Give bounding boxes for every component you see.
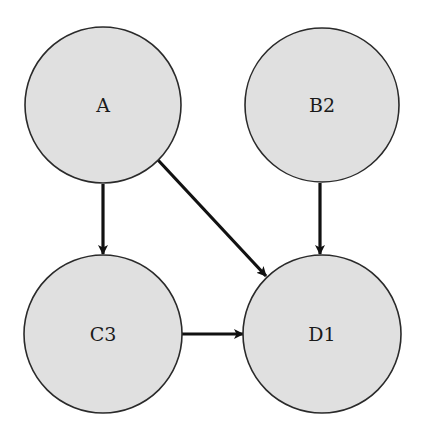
edge-a-to-d1 [158, 160, 266, 276]
node-c3: C3 [24, 255, 182, 413]
node-b2-label: B2 [309, 94, 335, 116]
node-a-label: A [95, 94, 110, 116]
graph-diagram: A B2 C3 D1 [0, 0, 422, 442]
node-d1: D1 [243, 255, 401, 413]
node-b2: B2 [245, 28, 399, 182]
node-d1-label: D1 [308, 323, 335, 345]
node-c3-label: C3 [90, 323, 117, 345]
node-a: A [25, 27, 181, 183]
